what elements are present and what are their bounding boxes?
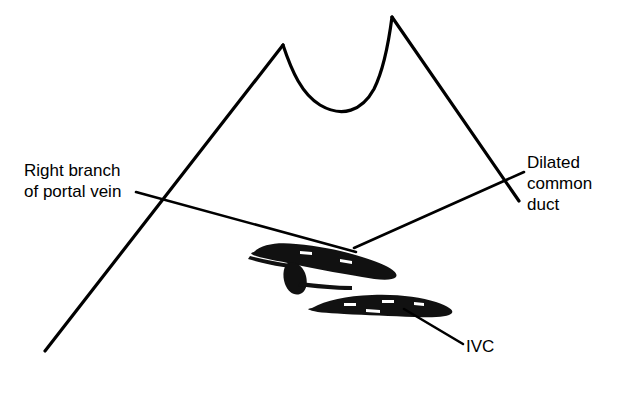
skin-surface-curve [283,17,392,112]
label-ivc-line1: IVC [466,336,494,357]
vessel-wall-dash-2 [298,282,352,290]
leader-line-portal-vein [136,192,356,252]
label-common-duct-line2: common [527,173,592,194]
label-ivc: IVC [466,336,494,357]
label-portal-vein-line1: Right branch [24,160,121,181]
label-common-duct-line1: Dilated [527,152,592,173]
label-portal-vein-line2: of portal vein [24,181,121,202]
label-right-branch-of-portal-vein: Right branch of portal vein [24,160,121,202]
ivc-vessel-shape [308,295,452,318]
sector-right-edge [392,17,519,201]
vessel-structures [248,243,452,317]
label-common-duct-line3: duct [527,194,592,215]
label-dilated-common-duct: Dilated common duct [527,152,592,215]
ivc-highlight-2 [382,300,394,303]
leader-line-common-duct [354,172,524,248]
ultrasound-figure: Right branch of portal vein Dilated comm… [0,0,638,396]
ivc-highlight-1 [344,303,356,306]
